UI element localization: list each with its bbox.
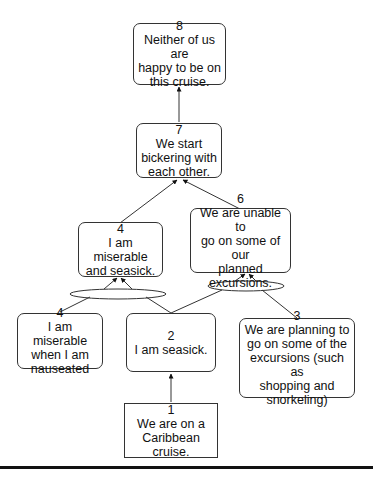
- node-text-line: We are on a: [137, 417, 205, 431]
- node-number: 3: [294, 309, 301, 323]
- node-text-line: We are planning to: [245, 323, 350, 337]
- node-text-line: Caribbean: [142, 431, 200, 445]
- node-text-line: planned: [218, 262, 263, 276]
- node-number: 8: [176, 19, 183, 33]
- node-number: 4: [117, 222, 124, 236]
- node-text-line: shopping and: [259, 379, 334, 393]
- node-text-line: this cruise.: [150, 75, 210, 89]
- node-text-line: Neither of us are: [137, 33, 222, 61]
- edge-2-to-joint-b: [171, 290, 222, 313]
- edge-4a-to-7: [120, 180, 177, 223]
- bottom-divider: [0, 466, 373, 469]
- node-7: 7 We start bickering with each other.: [136, 123, 222, 178]
- node-text-line: happy to be on: [138, 61, 221, 75]
- node-text-line: We are unable to: [194, 206, 287, 234]
- node-4-miserable-nauseated: 4 I am miserable when I am nauseated: [17, 313, 103, 369]
- node-text-line: each other.: [148, 165, 210, 179]
- edge-3-to-joint: [262, 290, 297, 318]
- node-text-line: go on some of the: [247, 337, 347, 351]
- node-text-line: excursions (such as: [243, 351, 351, 379]
- node-text-line: I am miserable: [82, 236, 159, 264]
- node-number: 1: [168, 403, 175, 417]
- node-2: 2 I am seasick.: [126, 313, 216, 372]
- node-text-line: cruise.: [153, 445, 190, 459]
- node-3: 3 We are planning to go on some of the e…: [239, 318, 355, 398]
- node-text-line: I am seasick.: [135, 343, 208, 357]
- node-6: 6 We are unable to go on some of our pla…: [190, 208, 291, 273]
- node-text-line: go on some of our: [194, 234, 287, 262]
- node-4-miserable-seasick: 4 I am miserable and seasick.: [78, 222, 163, 277]
- node-number: 6: [237, 192, 244, 206]
- node-text-line: bickering with: [141, 151, 217, 165]
- node-text-line: excursions.: [209, 276, 272, 290]
- node-text-line: We start: [156, 137, 202, 151]
- node-number: 7: [176, 123, 183, 137]
- edge-joint-to-4a-left: [104, 278, 117, 289]
- edge-4b-to-joint: [60, 297, 90, 312]
- edge-2-to-joint-a: [146, 297, 171, 313]
- node-1: 1 We are on a Caribbean cruise.: [124, 403, 218, 458]
- node-text-line: snorkeling): [266, 393, 327, 407]
- node-text-line: nauseated: [31, 362, 89, 376]
- node-8: 8 Neither of us are happy to be on this …: [133, 23, 226, 85]
- node-text-line: and seasick.: [86, 264, 155, 278]
- node-number: 4: [57, 306, 64, 320]
- node-text-line: when I am: [31, 348, 89, 362]
- node-text-line: I am miserable: [21, 320, 99, 348]
- joint-ellipse-4a: [70, 289, 166, 299]
- node-number: 2: [168, 329, 175, 343]
- edge-joint-to-4a-right: [121, 278, 132, 289]
